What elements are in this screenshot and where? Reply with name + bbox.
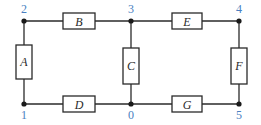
node-label-4: 4 [236,2,242,16]
node-label-2: 2 [21,2,27,16]
component-label-B: B [75,15,83,29]
component-G: G [172,96,202,112]
node-label-5: 5 [236,108,242,122]
component-E: E [172,13,202,29]
node-label-3: 3 [128,2,134,16]
node-dot-4 [236,18,241,23]
node-dot-0 [128,101,133,106]
component-A: A [16,45,32,79]
node-label-1: 1 [21,108,27,122]
component-label-D: D [74,98,84,112]
component-C: C [123,48,139,84]
component-label-A: A [19,55,28,69]
node-dot-5 [236,101,241,106]
component-B: B [63,13,95,29]
component-label-G: G [183,98,192,112]
node-dot-2 [21,18,26,23]
circuit-diagram: A B C D E F G 2 3 4 1 0 5 [0,0,261,125]
component-label-F: F [234,59,243,73]
component-D: D [63,96,95,112]
component-label-E: E [182,15,191,29]
node-dot-3 [128,18,133,23]
component-label-C: C [127,59,136,73]
node-dot-1 [21,101,26,106]
node-label-0: 0 [128,108,134,122]
component-F: F [231,48,247,84]
